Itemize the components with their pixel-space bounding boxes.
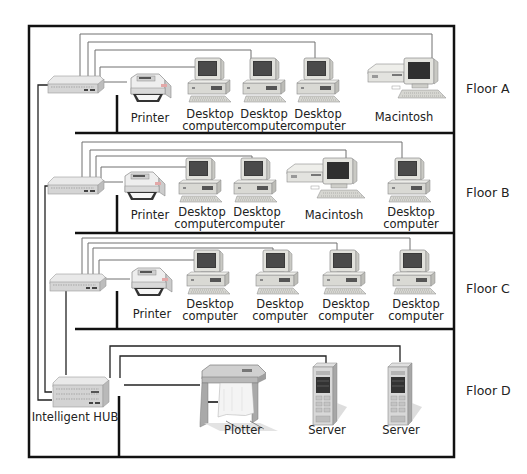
device-label: computer: [182, 309, 238, 323]
device-desktop[interactable]: Desktop computer: [182, 58, 238, 133]
device-printer[interactable]: Printer: [125, 172, 169, 222]
device-printer[interactable]: Printer: [131, 74, 171, 125]
device-macintosh[interactable]: Macintosh: [368, 58, 446, 124]
floor-b-hub[interactable]: [48, 177, 104, 194]
device-label: Macintosh: [305, 208, 364, 222]
floor-label-b: Floor B: [466, 185, 510, 200]
device-label: computer: [229, 217, 285, 231]
device-desktop[interactable]: Desktop computer: [229, 158, 285, 231]
device-label: Macintosh: [375, 110, 434, 124]
device-desktop[interactable]: Desktop computer: [252, 250, 308, 323]
device-server[interactable]: Server: [382, 363, 422, 437]
device-macintosh[interactable]: Macintosh: [287, 158, 365, 222]
device-label: Server: [308, 423, 346, 437]
device-desktop[interactable]: Desktop computer: [236, 58, 292, 133]
floor-d: Intelligent HUB Plotter Server Server Fl…: [32, 363, 511, 437]
device-desktop[interactable]: Desktop computer: [182, 250, 238, 323]
floor-a-hub[interactable]: [48, 76, 104, 93]
device-label: Printer: [133, 307, 172, 321]
device-label: computer: [252, 309, 308, 323]
device-desktop[interactable]: Desktop computer: [174, 158, 230, 231]
device-label: Printer: [131, 111, 170, 125]
hub-label: Intelligent HUB: [32, 410, 119, 424]
device-desktop[interactable]: Desktop computer: [290, 58, 346, 133]
device-desktop[interactable]: Desktop computer: [383, 158, 439, 231]
floor-label-a: Floor A: [466, 81, 510, 96]
riser-cables: [38, 85, 66, 400]
floor-label-d: Floor D: [466, 383, 511, 398]
device-label: Server: [382, 423, 420, 437]
device-label: computer: [318, 309, 374, 323]
device-label: Printer: [131, 208, 170, 222]
floor-label-c: Floor C: [466, 281, 510, 296]
device-label: computer: [290, 119, 346, 133]
device-desktop[interactable]: Desktop computer: [388, 250, 444, 323]
device-printer[interactable]: Printer: [132, 268, 172, 321]
device-server[interactable]: Server: [308, 363, 347, 437]
device-label: computer: [236, 119, 292, 133]
device-label: Plotter: [224, 423, 262, 437]
device-desktop[interactable]: Desktop computer: [318, 250, 374, 323]
floor-c: Printer Desktop computer Desktop compute…: [50, 250, 510, 323]
device-label: computer: [174, 217, 230, 231]
device-plotter[interactable]: Plotter: [200, 365, 278, 437]
device-label: computer: [383, 217, 439, 231]
network-diagram: Printer Desktop computer Desktop compute…: [0, 0, 527, 474]
device-label: computer: [388, 309, 444, 323]
device-label: computer: [182, 119, 238, 133]
floor-c-hub[interactable]: [50, 274, 106, 291]
